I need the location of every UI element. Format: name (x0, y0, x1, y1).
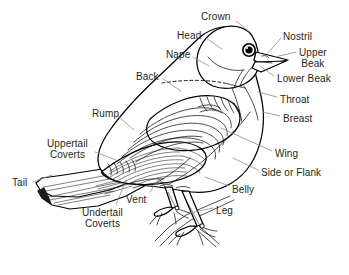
label-back: Back (136, 71, 159, 82)
label-upper-beak: UpperBeak (299, 47, 327, 69)
label-vent: Vent (126, 194, 146, 205)
label-nape: Nape (166, 49, 190, 60)
label-belly: Belly (232, 184, 254, 195)
label-leg: Leg (216, 205, 233, 216)
bird-anatomy-diagram: CrownHeadNapeBackRumpUppertailCovertsTai… (0, 0, 349, 275)
label-rump: Rump (92, 108, 119, 119)
leader-upper-beak (275, 52, 296, 57)
leader-nostril (268, 38, 281, 53)
leader-breast (263, 112, 280, 116)
eye (243, 44, 255, 56)
label-breast: Breast (283, 113, 313, 124)
label-lower-beak: Lower Beak (277, 73, 331, 84)
label-wing: Wing (275, 148, 298, 159)
label-crown: Crown (201, 11, 230, 22)
label-undertail-coverts: UndertailCoverts (82, 207, 123, 229)
label-head: Head (177, 30, 201, 41)
label-side-or-flank: Side or Flank (261, 167, 321, 178)
label-tail: Tail (12, 177, 27, 188)
label-uppertail-coverts: UppertailCoverts (47, 138, 88, 160)
label-nostril: Nostril (283, 31, 312, 42)
label-throat: Throat (280, 94, 310, 105)
